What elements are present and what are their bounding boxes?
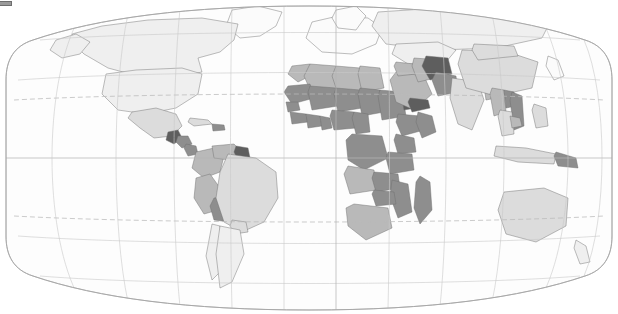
country-ghana [320,116,332,130]
legend-color-swatch [0,1,12,6]
country-ivory-coast [306,114,322,128]
world-map-figure: 00 [0,0,618,314]
map-legend: 00 [0,1,26,22]
country-senegal [286,102,300,112]
country-guinea [290,112,308,124]
country-mali [308,86,338,110]
legend-label: 00 [0,9,26,22]
country-hispaniola [212,124,225,131]
country-niger [334,88,362,112]
country-tanzania [386,152,414,174]
country-angola [344,166,376,194]
world-map-svg [0,0,618,314]
country-zimbabwe [372,190,396,206]
map-canvas [0,0,618,314]
country-nigeria [330,110,356,130]
